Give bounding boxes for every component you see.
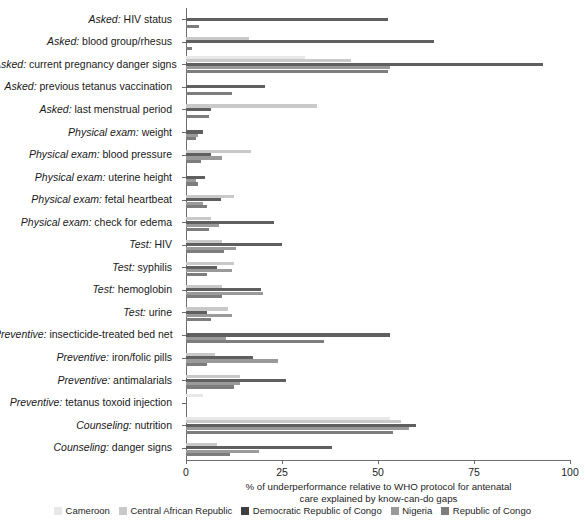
y-axis-label: Asked: last menstrual period xyxy=(0,104,172,115)
bar xyxy=(186,318,211,321)
y-axis-label-text: blood pressure xyxy=(100,148,172,160)
y-axis-tick xyxy=(182,245,186,246)
y-axis-label-text: nutrition xyxy=(132,419,172,431)
y-axis-label-text: hemoglobin xyxy=(115,283,172,295)
x-axis-title-line-2: care explained by know-can-do gaps xyxy=(186,493,571,505)
bar xyxy=(186,340,324,343)
legend-item[interactable]: Cameroon xyxy=(54,505,110,516)
antenatal-care-grouped-bar-chart: Asked: HIV statusAsked: blood group/rhes… xyxy=(0,0,585,527)
y-axis-label: Physical exam: weight xyxy=(0,127,172,138)
legend-item[interactable]: Central African Republic xyxy=(119,505,232,516)
y-axis-label: Asked: blood group/rhesus xyxy=(0,36,172,47)
y-axis-label: Asked: current pregnancy danger signs xyxy=(0,59,172,70)
x-axis-title-line-1: % of underperformance relative to WHO pr… xyxy=(186,481,571,493)
y-axis-label-text: uterine height xyxy=(105,171,172,183)
y-axis-category-labels: Asked: HIV statusAsked: blood group/rhes… xyxy=(0,8,180,459)
x-axis-tick xyxy=(186,460,187,464)
bar xyxy=(186,70,388,73)
y-axis-label: Counseling: danger signs xyxy=(0,442,172,453)
y-axis-label-text: urine xyxy=(146,306,172,318)
y-axis-label-text: previous tetanus vaccination xyxy=(37,80,172,92)
x-axis-tick-label: 50 xyxy=(372,466,384,478)
y-axis-label-prefix: Asked: xyxy=(89,13,121,25)
y-axis-label-text: HIV status xyxy=(121,13,172,25)
legend-label: Democratic Republic of Congo xyxy=(253,505,382,516)
legend-item[interactable]: Nigeria xyxy=(391,505,433,516)
legend-label: Republic of Congo xyxy=(453,505,531,516)
legend-swatch-icon xyxy=(391,507,399,515)
y-axis-label: Physical exam: fetal heartbeat xyxy=(0,194,172,205)
bar xyxy=(186,47,192,50)
legend-label: Cameroon xyxy=(66,505,110,516)
y-axis-label-prefix: Preventive: xyxy=(10,396,63,408)
legend-item[interactable]: Democratic Republic of Congo xyxy=(241,505,381,516)
y-axis-label-prefix: Physical exam: xyxy=(29,148,100,160)
y-axis-tick xyxy=(182,109,186,110)
y-axis-label-text: syphilis xyxy=(135,261,172,273)
y-axis-label-prefix: Physical exam: xyxy=(21,216,92,228)
chart-legend: CameroonCentral African RepublicDemocrat… xyxy=(0,505,585,516)
legend-swatch-icon xyxy=(241,507,249,515)
x-axis-tick-label: 0 xyxy=(183,466,189,478)
legend-label: Nigeria xyxy=(402,505,432,516)
y-axis-label: Physical exam: check for edema xyxy=(0,217,172,228)
y-axis-label-prefix: Test: xyxy=(92,283,114,295)
y-axis-tick xyxy=(182,425,186,426)
x-axis-tick xyxy=(474,460,475,464)
y-axis-label-text: insecticide-treated bed net xyxy=(47,328,173,340)
legend-swatch-icon xyxy=(441,507,449,515)
x-axis-tick-label: 100 xyxy=(561,466,579,478)
y-axis-label: Preventive: insecticide-treated bed net xyxy=(0,329,172,340)
y-axis-label-prefix: Preventive: xyxy=(0,328,47,340)
bar xyxy=(186,115,209,118)
y-axis-tick xyxy=(182,87,186,88)
bar xyxy=(186,108,211,111)
y-axis-label-prefix: Preventive: xyxy=(58,374,111,386)
y-axis-tick xyxy=(182,155,186,156)
y-axis-label-text: antimalarials xyxy=(110,374,172,386)
y-axis-tick xyxy=(182,335,186,336)
x-axis-tick-label: 25 xyxy=(276,466,288,478)
x-axis-tick xyxy=(570,460,571,464)
bar xyxy=(186,18,388,21)
y-axis-label-prefix: Physical exam: xyxy=(31,193,102,205)
y-axis-tick xyxy=(182,200,186,201)
y-axis-tick xyxy=(182,358,186,359)
y-axis-label-prefix: Physical exam: xyxy=(68,126,139,138)
bar xyxy=(186,431,393,434)
y-axis-label: Test: syphilis xyxy=(0,262,172,273)
y-axis-label-prefix: Test: xyxy=(129,238,151,250)
legend-label: Central African Republic xyxy=(130,505,232,516)
bar xyxy=(186,85,265,88)
y-axis-tick xyxy=(182,312,186,313)
y-axis-label: Physical exam: blood pressure xyxy=(0,149,172,160)
y-axis-label: Asked: previous tetanus vaccination xyxy=(0,81,172,92)
y-axis-tick xyxy=(182,290,186,291)
y-axis-tick xyxy=(182,267,186,268)
y-axis-label: Preventive: antimalarials xyxy=(0,375,172,386)
y-axis-label-text: danger signs xyxy=(109,441,172,453)
y-axis-label-text: weight xyxy=(139,126,172,138)
y-axis-label: Preventive: tetanus toxoid injection xyxy=(0,397,172,408)
bar xyxy=(186,385,234,388)
legend-item[interactable]: Republic of Congo xyxy=(441,505,531,516)
x-axis-tick-label: 75 xyxy=(468,466,480,478)
y-axis-label: Test: urine xyxy=(0,307,172,318)
y-axis-label: Asked: HIV status xyxy=(0,14,172,25)
y-axis-tick xyxy=(182,64,186,65)
y-axis-label: Test: hemoglobin xyxy=(0,284,172,295)
bar xyxy=(186,160,201,163)
y-axis-tick xyxy=(182,42,186,43)
bar xyxy=(186,295,222,298)
y-axis-label-prefix: Preventive: xyxy=(56,351,109,363)
bar xyxy=(186,363,207,366)
bar xyxy=(186,273,207,276)
y-axis-tick xyxy=(182,177,186,178)
y-axis-label-text: last menstrual period xyxy=(72,103,172,115)
y-axis-tick xyxy=(182,448,186,449)
y-axis-label-text: tetanus toxoid injection xyxy=(62,396,172,408)
y-axis-label-text: iron/folic pills xyxy=(109,351,172,363)
x-axis-tick xyxy=(282,460,283,464)
y-axis-label: Preventive: iron/folic pills xyxy=(0,352,172,363)
y-axis-label-text: fetal heartbeat xyxy=(102,193,172,205)
